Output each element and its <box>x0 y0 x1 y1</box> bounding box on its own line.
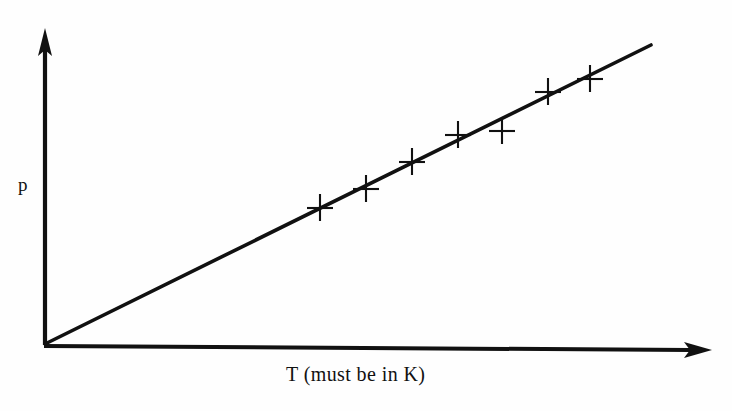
figure-canvas: p T (must be in K) <box>0 0 732 411</box>
y-axis-label: p <box>18 175 28 194</box>
graph-drawing <box>0 0 732 411</box>
x-axis-label: T (must be in K) <box>286 364 425 384</box>
